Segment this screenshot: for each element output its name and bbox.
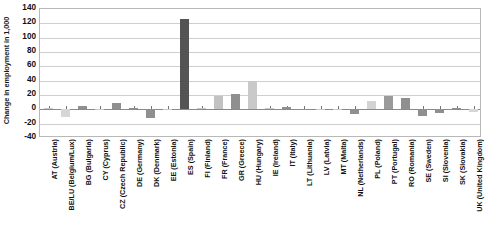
bar xyxy=(95,109,104,110)
y-tick-label: 80 xyxy=(27,47,36,55)
bar xyxy=(231,94,240,109)
x-category-label: DE (Germany) xyxy=(136,139,143,187)
x-category-label: PL (Poland) xyxy=(374,139,381,179)
bar xyxy=(146,109,155,118)
bar xyxy=(350,109,359,114)
x-category-label: FI (Finland) xyxy=(204,139,211,178)
y-tick-label: -20 xyxy=(24,119,36,127)
bar xyxy=(248,81,257,109)
y-axis-tick-labels: 140120100806040200-20-40 xyxy=(14,0,38,140)
y-tick-label: -40 xyxy=(24,133,36,141)
bar xyxy=(214,96,223,110)
x-category-label: PT (Portugal) xyxy=(391,139,398,184)
bars-layer xyxy=(40,9,480,136)
bar xyxy=(265,108,274,109)
bar xyxy=(367,101,376,109)
x-category-label: NL (Netherlands) xyxy=(357,139,364,197)
bar xyxy=(129,108,138,109)
bar xyxy=(452,108,461,109)
bar xyxy=(469,109,478,112)
plot-area xyxy=(39,8,481,137)
bar xyxy=(333,109,342,110)
y-tick-label: 100 xyxy=(22,33,36,41)
x-category-label: BE/LU (Belgium/Lux) xyxy=(68,139,75,210)
y-tick-label: 60 xyxy=(27,61,36,69)
y-axis-title: Change in employment in 1,000 xyxy=(0,0,14,140)
x-category-label: LT (Lithuania) xyxy=(306,139,313,186)
bar xyxy=(384,96,393,110)
x-category-label: MT (Malta) xyxy=(340,139,347,175)
y-tick-label: 120 xyxy=(22,18,36,26)
bar xyxy=(316,109,325,110)
x-category-label: LV (Latvia) xyxy=(323,139,330,175)
x-category-label: GR (Greece) xyxy=(238,139,245,181)
bar xyxy=(180,19,189,109)
x-category-label: BG (Bulgaria) xyxy=(85,139,92,185)
x-category-label: IT (Italy) xyxy=(289,139,296,167)
bar xyxy=(78,106,87,110)
x-category-label: FR (France) xyxy=(221,139,228,179)
x-category-label: AT (Austria) xyxy=(51,139,58,180)
bar xyxy=(112,103,121,109)
y-tick-label: 40 xyxy=(27,76,36,84)
x-category-label: SI (Slovenia) xyxy=(442,139,449,182)
y-tick-label: 20 xyxy=(27,90,36,98)
x-category-label: RO (Romania) xyxy=(408,139,415,187)
bar xyxy=(197,108,206,109)
x-axis-category-labels: AT (Austria)BE/LU (Belgium/Lux)BG (Bulga… xyxy=(39,139,481,235)
y-tick-label: 140 xyxy=(22,4,36,12)
x-category-label: CY (Cyprus) xyxy=(102,139,109,180)
bar xyxy=(163,109,172,110)
bar xyxy=(299,109,308,110)
bar xyxy=(44,108,53,109)
x-category-label: DK (Denmark) xyxy=(153,139,160,187)
bar xyxy=(401,98,410,109)
y-axis-title-text: Change in employment in 1,000 xyxy=(3,16,12,124)
x-category-label: HU (Hungary) xyxy=(255,139,262,185)
x-category-label: ES (Spain) xyxy=(187,139,194,175)
x-category-label: EE (Estonia) xyxy=(170,139,177,181)
bar xyxy=(418,109,427,116)
bar xyxy=(61,109,70,117)
x-category-label: CZ (Czech Republic) xyxy=(119,139,126,209)
employment-change-bar-chart: Change in employment in 1,000 1401201008… xyxy=(0,0,485,235)
x-category-label: SK (Slovakia) xyxy=(459,139,466,185)
x-category-label: SE (Sweden) xyxy=(425,139,432,183)
bar xyxy=(282,107,291,109)
bar xyxy=(435,109,444,113)
x-category-label: UK (United Kingdom) xyxy=(476,139,483,212)
x-category-label: IE (Ireland) xyxy=(272,139,279,176)
y-tick-label: 0 xyxy=(31,104,36,112)
